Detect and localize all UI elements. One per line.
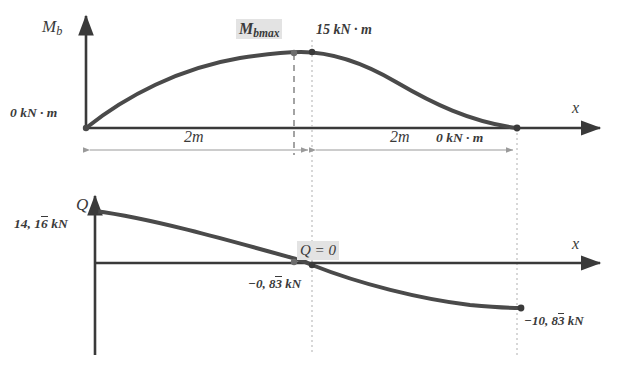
moment-curve	[86, 52, 517, 128]
moment-chart-group	[83, 16, 600, 355]
shear-chart-group	[92, 196, 600, 355]
moment-end-value-label: 0 kN · m	[436, 131, 483, 145]
moment-dimension-label-right: 2m	[390, 129, 410, 145]
figure-canvas: Mb x 0 kN · m Mbmax 15 kN · m 0 kN · m 2…	[0, 0, 621, 373]
shear-zero-marker-label: Q = 0	[297, 243, 339, 258]
shear-marker-end	[518, 305, 525, 312]
moment-max-marker-label: Mbmax	[236, 21, 282, 39]
moment-marker-peak-b	[309, 49, 315, 55]
moment-max-value-label: 15 kN · m	[316, 23, 372, 37]
shear-zero-cross-value-label: −0, 83 kN	[248, 276, 301, 290]
shear-end-value-label: −10, 83 kN	[524, 313, 584, 327]
moment-x-axis-label: x	[572, 100, 579, 116]
repeating-bar: 6	[41, 216, 48, 231]
moment-y-axis-label: Mb	[42, 18, 62, 37]
shear-start-value-label: 14, 16 kN	[14, 216, 68, 231]
shear-y-axis-label: Q	[76, 196, 88, 213]
shear-marker-start	[92, 208, 99, 215]
moment-marker-end	[514, 125, 521, 132]
shear-marker-cross	[309, 262, 315, 268]
moment-marker-origin	[83, 125, 89, 131]
shear-x-axis-label: x	[572, 236, 579, 252]
moment-origin-value-label: 0 kN · m	[10, 106, 57, 120]
moment-marker-peak-a	[291, 50, 297, 56]
moment-dimension-label-left: 2m	[184, 129, 204, 145]
